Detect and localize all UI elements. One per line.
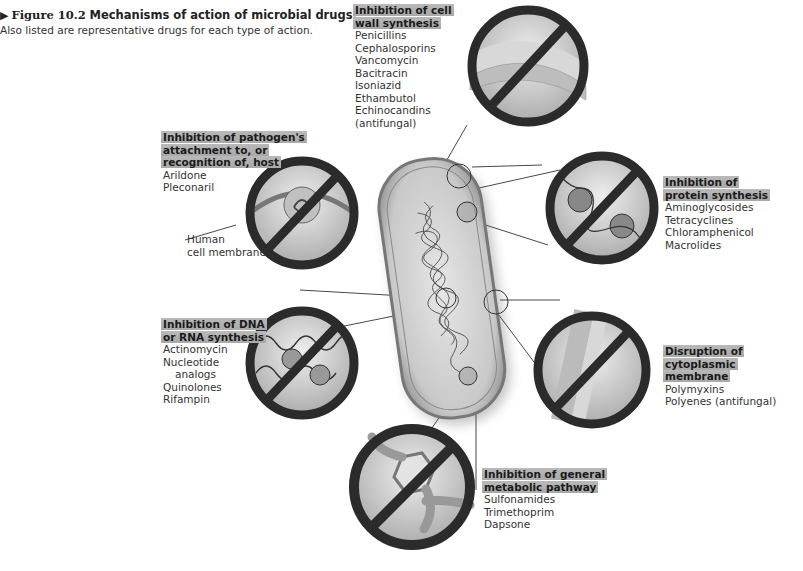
heading-line: recognition of, host — [161, 156, 281, 168]
heading-line: Inhibition of DNA — [161, 318, 267, 330]
drug-item: Nucleotide — [163, 356, 267, 369]
label-metabolic: Inhibition of general metabolic pathway … — [484, 468, 607, 531]
drug-item: Polyenes (antifungal) — [665, 395, 803, 408]
drug-item: Vancomycin — [355, 54, 454, 67]
drug-list: Penicillins Cephalosporins Vancomycin Ba… — [355, 29, 454, 129]
drug-item: Arildone — [163, 169, 307, 182]
drug-list: Actinomycin Nucleotide analogs Quinolone… — [163, 343, 267, 406]
heading-line: metabolic pathway — [482, 481, 598, 493]
prohibition-protein-synthesis — [546, 152, 658, 264]
drug-item: Chloramphenicol — [665, 226, 770, 239]
heading-line: Inhibition of cell — [353, 4, 454, 16]
drug-item: Quinolones — [163, 381, 267, 394]
drug-item: Isoniazid — [355, 79, 454, 92]
label-nucleic-acid: Inhibition of DNA or RNA synthesis Actin… — [163, 318, 267, 406]
drug-item: Actinomycin — [163, 343, 267, 356]
heading-line: cytoplasmic membrane — [663, 358, 738, 383]
label-membrane: Disruption of cytoplasmic membrane Polym… — [665, 345, 803, 408]
drug-item: Pleconaril — [163, 181, 307, 194]
drug-item: Tetracyclines — [665, 214, 770, 227]
drug-item: Penicillins — [355, 29, 454, 42]
bacterium-cell — [373, 152, 517, 431]
drug-item: Sulfonamides — [484, 493, 607, 506]
prohibition-metabolic — [350, 425, 474, 549]
heading-line: or RNA synthesis — [161, 331, 266, 343]
prohibition-cell-wall — [468, 6, 588, 126]
heading-line: Inhibition of pathogen's — [161, 131, 307, 143]
label-protein-synthesis: Inhibition of protein synthesis Aminogly… — [665, 176, 770, 251]
drug-item: Macrolides — [665, 239, 770, 252]
drug-item: analogs — [163, 368, 267, 381]
drug-item: Cephalosporins — [355, 42, 454, 55]
drug-list: Polymyxins Polyenes (antifungal) — [665, 383, 803, 408]
drug-item: Echinocandins — [355, 104, 454, 117]
drug-item: Dapsone — [484, 518, 607, 531]
drug-item: Polymyxins — [665, 383, 803, 396]
drug-list: Sulfonamides Trimethoprim Dapsone — [484, 493, 607, 531]
drug-item: Rifampin — [163, 393, 267, 406]
heading-line: protein synthesis — [663, 189, 770, 201]
prohibition-membrane — [534, 309, 650, 428]
drug-list: Arildone Pleconaril — [163, 169, 307, 194]
label-cell-wall: Inhibition of cell wall synthesis Penici… — [355, 4, 454, 129]
heading-line: Inhibition of general — [482, 468, 607, 480]
heading-line: Inhibition of — [663, 176, 739, 188]
heading-line: wall synthesis — [353, 17, 441, 29]
label-attachment: Inhibition of pathogen's attachment to, … — [163, 131, 307, 194]
drug-item: Ethambutol — [355, 92, 454, 105]
drug-item: Bacitracin — [355, 67, 454, 80]
drug-item: Trimethoprim — [484, 506, 607, 519]
drug-list: Aminoglycosides Tetracyclines Chloramphe… — [665, 201, 770, 251]
human-cell-membrane-label: Human cell membrane — [187, 233, 266, 258]
heading-line: attachment to, or — [161, 144, 269, 156]
heading-line: Disruption of — [663, 345, 744, 357]
drug-item: Aminoglycosides — [665, 201, 770, 214]
drug-item: (antifungal) — [355, 117, 454, 130]
